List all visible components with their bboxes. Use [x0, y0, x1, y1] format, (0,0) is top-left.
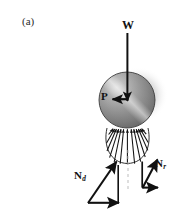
force-diagram-figure: (a) W P Nd Nr	[0, 0, 190, 212]
driving-reaction-resultant	[88, 162, 117, 204]
figure-vector-canvas	[0, 0, 190, 212]
panel-label: (a)	[22, 16, 34, 27]
driving-reaction-label-base: N	[74, 169, 82, 181]
weight-label: W	[122, 19, 134, 31]
resisting-reaction-label-base: N	[155, 157, 163, 169]
driving-reaction-label: Nd	[74, 170, 86, 183]
resisting-reaction-label: Nr	[155, 158, 166, 171]
applied-load-label: P	[101, 91, 108, 102]
driving-reaction-label-subscript: d	[82, 175, 86, 183]
driving-reaction-vector	[88, 162, 119, 204]
resisting-reaction-label-subscript: r	[163, 163, 166, 171]
